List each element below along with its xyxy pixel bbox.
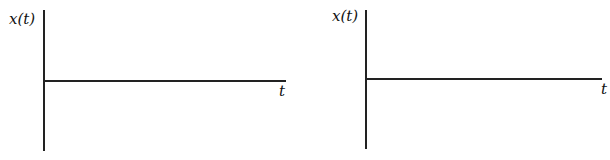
y-axis-label: x(t) [9,12,35,27]
plot-left: x(t) t [0,0,305,160]
x-axis-label: t [601,82,607,97]
x-axis-label: t [279,84,285,99]
y-axis-label: x(t) [332,9,358,24]
plot-right: x(t) t [305,0,610,160]
x-axis [43,80,286,82]
x-axis [365,78,602,80]
y-axis [365,10,367,149]
